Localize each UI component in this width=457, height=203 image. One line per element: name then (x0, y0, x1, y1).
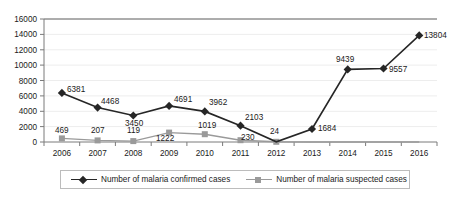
x-tick-2006: 2006 (53, 149, 72, 158)
diamond-marker-icon (71, 175, 97, 185)
y-tick-0: 0 (32, 138, 37, 147)
y-tick-10000: 10000 (14, 61, 37, 70)
square-marker-icon (246, 175, 272, 185)
data-label-suspected-2006: 469 (55, 126, 69, 135)
data-label-confirmed-2011: 2103 (245, 113, 264, 122)
chart-legend: Number of malaria confirmed cases Number… (60, 170, 410, 189)
y-tick-14000: 14000 (14, 30, 37, 39)
data-label-confirmed-2007: 4468 (101, 97, 120, 106)
y-tick-16000: 16000 (14, 15, 37, 24)
y-tick-12000: 12000 (14, 46, 37, 55)
legend-label-confirmed: Number of malaria confirmed cases (101, 175, 230, 184)
data-label-suspected-2009: 1222 (156, 134, 175, 143)
data-label-confirmed-2009: 4691 (174, 95, 193, 104)
x-tick-2010: 2010 (196, 149, 215, 158)
data-label-suspected-2007: 207 (91, 126, 105, 135)
x-tick-2007: 2007 (88, 149, 107, 158)
data-label-confirmed-2006: 6381 (67, 85, 86, 94)
y-tick-6000: 6000 (19, 92, 38, 101)
x-tick-2008: 2008 (124, 149, 143, 158)
y-tick-2000: 2000 (19, 123, 38, 132)
x-tick-2012: 2012 (267, 149, 286, 158)
x-tick-2014: 2014 (339, 149, 358, 158)
data-label-confirmed-2015: 9557 (389, 65, 408, 74)
data-label-confirmed-2016: 13804 (424, 31, 447, 40)
x-tick-2009: 2009 (160, 149, 179, 158)
series-markers-confirmed (58, 31, 424, 133)
legend-label-suspected: Number of malaria suspected cases (276, 175, 407, 184)
legend-item-suspected[interactable]: Number of malaria suspected cases (246, 171, 407, 188)
data-label-suspected-2011: 230 (241, 133, 255, 142)
legend-item-confirmed[interactable]: Number of malaria confirmed cases (71, 171, 230, 188)
data-label-confirmed-2010: 3962 (209, 98, 228, 107)
x-tick-2016: 2016 (410, 149, 429, 158)
x-tick-2015: 2015 (374, 149, 393, 158)
y-axis (40, 19, 44, 142)
data-label-confirmed-2014: 9439 (336, 55, 355, 64)
data-label-suspected-2010: 1019 (198, 121, 217, 130)
x-tick-2011: 2011 (232, 149, 250, 158)
x-tick-2013: 2013 (303, 149, 322, 158)
gridlines (44, 19, 437, 127)
data-label-confirmed-2013: 1684 (318, 124, 337, 133)
y-tick-8000: 8000 (19, 77, 38, 86)
y-tick-4000: 4000 (19, 107, 38, 116)
malaria-cases-line-chart: 16000 14000 12000 10000 8000 6000 4000 2… (0, 0, 457, 203)
data-label-suspected-2008: 119 (127, 126, 140, 135)
data-label-confirmed-2012: 24 (270, 127, 280, 136)
